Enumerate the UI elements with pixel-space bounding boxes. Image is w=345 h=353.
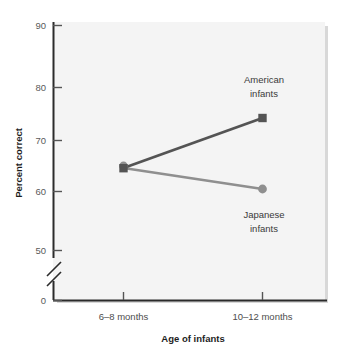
y-tick-label-80: 80: [35, 82, 46, 93]
x-tick-label-1: 6–8 months: [99, 311, 149, 322]
y-tick-label-50: 50: [35, 245, 46, 256]
series-label-american-line2: infants: [250, 88, 278, 99]
y-tick-label-70: 70: [35, 135, 46, 146]
y-axis-title: Percent correct: [13, 127, 24, 198]
x-tick-label-2: 10–12 months: [232, 311, 292, 322]
plot-background: [53, 22, 325, 300]
panel-shadow-right: [325, 26, 328, 303]
chart-svg: 90 80 70 60 50 0 6–8 months 10–12 months…: [0, 0, 345, 353]
chart-page: 90 80 70 60 50 0 6–8 months 10–12 months…: [0, 0, 345, 353]
y-tick-label-90: 90: [35, 20, 46, 31]
data-point-american-2: [258, 114, 266, 122]
data-point-japanese-2: [258, 185, 267, 194]
series-label-japanese-line2: infants: [250, 223, 278, 234]
line-chart-figure: 90 80 70 60 50 0 6–8 months 10–12 months…: [0, 0, 345, 353]
y-tick-label-0: 0: [41, 295, 46, 306]
x-axis-title: Age of infants: [161, 333, 224, 344]
series-label-japanese-line1: Japanese: [243, 209, 284, 220]
series-label-american-line1: American: [244, 74, 284, 85]
y-tick-label-60: 60: [35, 186, 46, 197]
data-point-american-1: [119, 164, 127, 172]
